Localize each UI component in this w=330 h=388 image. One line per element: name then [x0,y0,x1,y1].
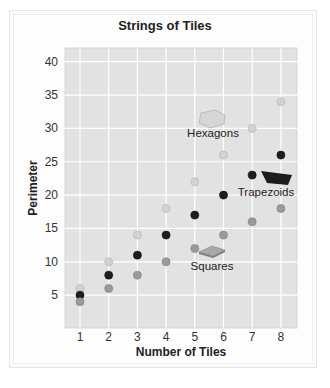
y-tick-label: 30 [45,121,59,135]
data-point-squares [191,244,199,252]
data-point-squares [76,298,84,306]
y-tick-label: 20 [45,188,59,202]
x-tick-label: 2 [105,330,112,344]
x-tick-label: 8 [278,330,285,344]
data-point-trapezoids [248,171,256,179]
data-point-squares [162,258,170,266]
x-tick-label: 4 [163,330,170,344]
data-point-trapezoids [277,151,285,159]
data-point-squares [248,218,256,226]
data-point-squares [220,231,228,239]
data-point-hexagons [191,178,199,186]
data-point-hexagons [277,98,285,106]
data-point-squares [105,284,113,292]
data-point-trapezoids [133,251,141,259]
x-axis-label: Number of Tiles [136,345,227,359]
data-point-trapezoids [191,211,199,219]
y-tick-label: 10 [45,255,59,269]
data-point-hexagons [162,204,170,212]
squares-label: Squares [191,260,234,272]
y-axis-ticks: 510152025303540 [45,55,59,302]
data-point-hexagons [105,258,113,266]
y-tick-label: 40 [45,55,59,69]
data-point-trapezoids [105,271,113,279]
y-tick-label: 15 [45,221,59,235]
scatter-chart: 510152025303540 12345678 Perimeter Numbe… [0,0,330,388]
trapezoids-label: Trapezoids [238,186,295,198]
x-tick-label: 1 [77,330,84,344]
y-tick-label: 5 [51,288,58,302]
y-tick-label: 25 [45,155,59,169]
data-point-trapezoids [162,231,170,239]
x-tick-label: 3 [134,330,141,344]
x-tick-label: 6 [220,330,227,344]
data-point-hexagons [220,151,228,159]
data-point-hexagons [248,124,256,132]
data-point-squares [133,271,141,279]
data-point-squares [277,204,285,212]
y-axis-label: Perimeter [26,160,40,216]
x-tick-label: 7 [249,330,256,344]
data-point-trapezoids [220,191,228,199]
y-tick-label: 35 [45,88,59,102]
x-axis-ticks: 12345678 [77,330,285,344]
data-point-hexagons [133,231,141,239]
x-tick-label: 5 [191,330,198,344]
hexagons-label: Hexagons [187,127,239,139]
